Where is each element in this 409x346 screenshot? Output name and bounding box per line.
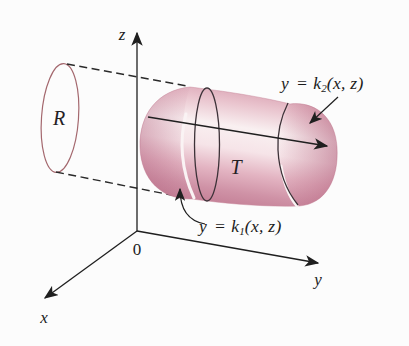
eq-k2-equals: = — [296, 73, 308, 93]
diagram-canvas: z x y 0 R T — [0, 0, 409, 346]
x-axis — [45, 231, 137, 298]
eq-k2-args: (x, z) — [327, 73, 364, 93]
eq-k2-lhs: y — [281, 73, 289, 93]
y-axis-label: y — [312, 270, 322, 289]
z-axis-label: z — [118, 25, 126, 44]
x-axis-label: x — [39, 308, 48, 327]
figure-3d-solid-region: z x y 0 R T y=k2(x, z) y=k1(x, z) — [0, 0, 409, 346]
eq-k1-lhs: y — [199, 216, 207, 236]
label-lower-surface-equation: y=k1(x, z) — [199, 216, 282, 237]
label-upper-surface-equation: y=k2(x, z) — [281, 73, 364, 94]
region-r-label: R — [52, 107, 65, 129]
projection-dashed-line-top — [67, 64, 187, 86]
solid-t-label: T — [230, 156, 243, 178]
eq-k1-args: (x, z) — [245, 216, 282, 236]
origin-label: 0 — [133, 240, 142, 259]
eq-k1-equals: = — [214, 216, 226, 236]
